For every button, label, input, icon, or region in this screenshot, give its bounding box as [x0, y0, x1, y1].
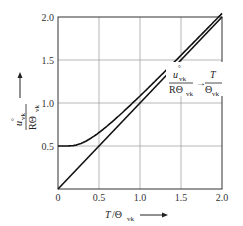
svg-text:RΘ: RΘ [169, 84, 183, 95]
svg-text:RΘ: RΘ [27, 116, 38, 130]
svg-text:T: T [105, 209, 112, 220]
x-tick-labels: 00.51.01.52.0 [56, 192, 229, 203]
chart: 00.51.01.52.0 0.51.01.52.0 T /Θ vk u vk … [0, 0, 243, 226]
x-tick-label: 1.0 [134, 192, 147, 203]
x-tick-label: 0 [56, 192, 61, 203]
svg-text:vk: vk [127, 215, 135, 223]
svg-text:/Θ: /Θ [112, 209, 122, 220]
svg-text:°: ° [10, 118, 18, 121]
svg-text:°: ° [178, 64, 181, 72]
x-tick-label: 2.0 [216, 192, 229, 203]
svg-text:vk: vk [179, 75, 187, 83]
svg-text:vk: vk [186, 90, 194, 98]
svg-text:vk: vk [212, 90, 220, 98]
y-axis-label: u vk ° RΘ vk [10, 72, 41, 130]
svg-text:vk: vk [33, 105, 41, 113]
x-tick-label: 0.5 [93, 192, 106, 203]
x-tick-label: 1.5 [175, 192, 188, 203]
x-axis-label: T /Θ vk [105, 209, 168, 223]
asymptote-annotation: u vk ° RΘ vk → T Θ vk [166, 62, 224, 98]
y-tick-label: 1.5 [42, 55, 55, 66]
y-tick-labels: 0.51.01.52.0 [42, 12, 55, 152]
y-tick-label: 2.0 [42, 12, 55, 23]
y-tick-label: 1.0 [42, 98, 55, 109]
y-tick-label: 0.5 [42, 141, 55, 152]
